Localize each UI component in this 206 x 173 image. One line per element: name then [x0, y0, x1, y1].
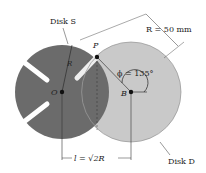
- point-p-dot: [95, 55, 99, 59]
- label-disk-s: Disk S: [50, 17, 76, 26]
- label-point-b: B: [120, 89, 127, 98]
- label-radius-dim: R = 50 mm: [146, 25, 192, 34]
- label-distance: l = √2R: [74, 154, 105, 163]
- label-radius-r: R: [66, 60, 73, 68]
- label-point-o: O: [51, 88, 58, 97]
- label-angle: ϕ = 135°: [117, 69, 154, 78]
- label-disk-d: Disk D: [168, 157, 195, 166]
- point-b-dot: [129, 90, 133, 94]
- point-o-dot: [60, 90, 64, 94]
- geneva-diagram: Disk S Disk D R = 50 mm ϕ = 135° P O B R…: [0, 0, 206, 173]
- label-point-p: P: [92, 41, 99, 50]
